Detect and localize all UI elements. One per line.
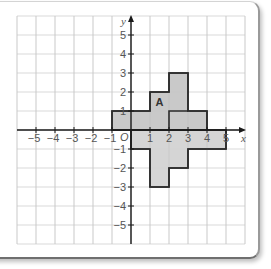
shape-image [131,130,226,187]
shape-label-A: A [156,96,164,108]
y-tick-label: 1 [120,105,126,117]
axes [17,15,246,244]
y-tick-label: 3 [120,67,126,79]
y-tick-label: 4 [120,48,126,60]
y-tick-label: −1 [113,143,126,155]
x-axis-label: x [240,132,246,144]
y-axis-label: y [120,15,126,27]
y-tick-label: −3 [113,181,126,193]
y-tick-label: 5 [120,29,126,41]
y-tick-label: −4 [113,200,126,212]
x-tick-label: −4 [47,132,60,144]
x-tick-label: −2 [85,132,98,144]
x-tick-label: −3 [66,132,79,144]
x-tick-label: 4 [204,132,210,144]
x-tick-label: 1 [147,132,153,144]
x-tick-label: 2 [166,132,172,144]
x-tick-label: 3 [185,132,191,144]
y-tick-label: −2 [113,162,126,174]
y-tick-label: 2 [120,86,126,98]
x-tick-label: 5 [223,132,229,144]
x-tick-label: −5 [28,132,41,144]
origin-label: O [120,131,129,143]
y-tick-label: −5 [113,219,126,231]
coordinate-grid: A x y O −5−4−3−2−11234554321−1−2−3−4−5 [0,0,271,269]
